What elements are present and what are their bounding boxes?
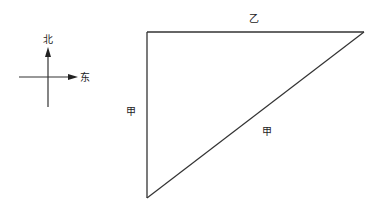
east-label: 东 [80,71,90,83]
north-label: 北 [43,34,53,45]
right-triangle: 乙 甲 甲 [126,13,364,198]
top-side-label: 乙 [249,13,259,24]
hypotenuse [147,32,364,198]
compass: 北 东 [19,34,90,107]
diagram-canvas: 北 东 乙 甲 甲 [0,0,379,206]
left-side-label: 甲 [126,106,136,117]
north-arrow-icon [45,47,51,57]
hypotenuse-label: 甲 [262,126,272,137]
east-arrow-icon [68,74,78,80]
